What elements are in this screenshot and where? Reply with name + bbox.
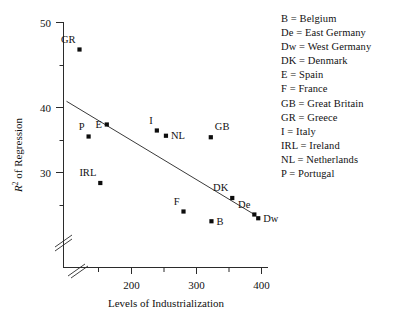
data-point-label: P: [79, 121, 85, 132]
data-point-marker: [87, 134, 91, 138]
data-point-marker: [230, 196, 234, 200]
legend-item: GB = Great Britain: [281, 97, 405, 111]
data-point-marker: [98, 181, 102, 185]
y-tick-label-30: 30: [40, 167, 52, 179]
data-point-marker: [105, 122, 109, 126]
legend-item: IRL = Ireland: [281, 139, 405, 153]
data-point-label: F: [174, 196, 180, 207]
legend-item: De = East Germany: [281, 26, 405, 40]
legend-item: I = Italy: [281, 125, 405, 139]
data-point-label: NL: [171, 130, 185, 141]
data-point-marker: [155, 128, 159, 132]
data-point-marker: [77, 47, 81, 51]
data-point-marker: [181, 209, 185, 213]
data-points-group: GREPINLGBIRLDKFDeDwB: [61, 34, 279, 227]
data-point-label: E: [95, 119, 101, 130]
y-tick-label-50: 50: [40, 17, 52, 29]
data-point-label: I: [149, 115, 153, 126]
data-point-marker: [209, 135, 213, 139]
y-tick-label-40: 40: [40, 102, 52, 114]
legend-abbreviations: B = Belgium De = East Germany Dw = West …: [281, 12, 405, 181]
legend-item: DK = Denmark: [281, 54, 405, 68]
y-axis-title: R2 of Regression: [11, 117, 24, 193]
legend-item: NL = Netherlands: [281, 153, 405, 167]
legend-item: P = Portugal: [281, 167, 405, 181]
x-tick-label-400: 400: [253, 279, 270, 291]
data-point-label: Dw: [263, 213, 279, 224]
x-tick-label-200: 200: [123, 279, 140, 291]
data-point-marker: [256, 216, 260, 220]
legend-item: GR = Greece: [281, 111, 405, 125]
data-point-label: DK: [213, 182, 229, 193]
data-point-label: GR: [61, 34, 76, 45]
data-point-label: B: [216, 216, 223, 227]
y-axis-title-rest: of Regression: [12, 117, 24, 181]
legend-item: B = Belgium: [281, 12, 405, 26]
legend-item: Dw = West Germany: [281, 40, 405, 54]
data-point-marker: [209, 219, 213, 223]
data-point-marker: [252, 212, 256, 216]
legend-item: F = France: [281, 82, 405, 96]
data-point-label: GB: [215, 121, 230, 132]
x-axis-title: Levels of Industrialization: [108, 297, 225, 309]
legend-item: E = Spain: [281, 68, 405, 82]
data-point-label: IRL: [79, 167, 96, 178]
x-tick-label-300: 300: [188, 279, 205, 291]
svg-text:R2 of Regression: R2 of Regression: [11, 117, 24, 193]
x-axis-break-mark: [68, 264, 88, 278]
data-point-marker: [164, 134, 168, 138]
data-point-label: De: [238, 199, 251, 210]
scatter-plot-figure: GREPINLGBIRLDKFDeDwB 200 300 400 50 40 3…: [0, 0, 407, 318]
